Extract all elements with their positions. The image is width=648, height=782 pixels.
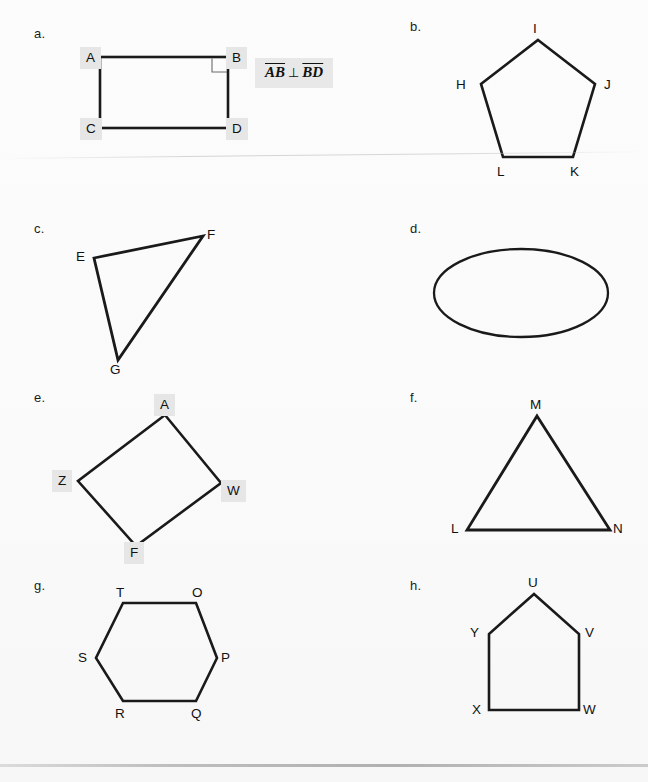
vertex-label-b-J: J bbox=[604, 78, 611, 92]
item-letter-e: e. bbox=[34, 390, 45, 405]
page-bottom-edge bbox=[0, 764, 648, 767]
figure-b-pentagon bbox=[478, 38, 598, 168]
item-letter-f: f. bbox=[410, 390, 418, 405]
vertex-label-g-O: O bbox=[192, 586, 203, 600]
item-letter-a: a. bbox=[34, 26, 45, 41]
vertex-label-a-C: C bbox=[86, 122, 96, 136]
figure-d-ellipse bbox=[432, 246, 612, 340]
vertex-label-c-F: F bbox=[207, 228, 215, 242]
vertex-label-a-A: A bbox=[86, 51, 95, 65]
figure-h-house bbox=[487, 592, 583, 714]
item-letter-h: h. bbox=[410, 578, 421, 593]
vertex-label-b-H: H bbox=[456, 78, 466, 92]
vertex-label-c-E: E bbox=[76, 250, 85, 264]
perpendicular-symbol: ⊥ bbox=[285, 65, 302, 80]
vertex-label-b-L: L bbox=[497, 165, 505, 179]
figure-a-rectangle bbox=[100, 57, 232, 133]
vertex-label-h-X: X bbox=[472, 703, 481, 717]
vertex-label-e-F: F bbox=[130, 546, 138, 560]
figure-f-triangle bbox=[464, 414, 614, 536]
notation-segment-ab: AB bbox=[265, 64, 285, 80]
figure-g-hexagon bbox=[94, 601, 220, 705]
vertex-label-f-L: L bbox=[451, 522, 459, 536]
vertex-label-h-V: V bbox=[585, 626, 594, 640]
notation-segment-bd: BD bbox=[302, 64, 323, 80]
vertex-label-e-Z: Z bbox=[58, 474, 66, 488]
vertex-label-f-M: M bbox=[530, 398, 541, 412]
vertex-label-f-N: N bbox=[613, 522, 623, 536]
figure-e-quadrilateral bbox=[76, 413, 228, 553]
vertex-label-b-K: K bbox=[570, 165, 579, 179]
item-letter-c: c. bbox=[34, 221, 45, 236]
vertex-label-a-B: B bbox=[232, 51, 241, 65]
vertex-label-g-S: S bbox=[78, 651, 87, 665]
figure-c-triangle bbox=[92, 234, 212, 369]
item-letter-g: g. bbox=[34, 578, 45, 593]
vertex-label-g-R: R bbox=[115, 707, 125, 721]
vertex-label-g-Q: Q bbox=[191, 707, 202, 721]
vertex-label-e-W: W bbox=[227, 484, 240, 498]
vertex-label-h-U: U bbox=[528, 576, 538, 590]
vertex-label-g-P: P bbox=[221, 651, 230, 665]
vertex-label-h-Y: Y bbox=[470, 626, 479, 640]
notation-perpendicular: AB⊥BD bbox=[255, 58, 333, 88]
vertex-label-b-I: I bbox=[533, 22, 537, 36]
vertex-label-c-G: G bbox=[110, 363, 121, 377]
vertex-label-g-T: T bbox=[116, 586, 124, 600]
worksheet-page: a. A B C D AB⊥BD b. I H J L K c. E F G bbox=[0, 0, 648, 782]
vertex-label-e-A: A bbox=[160, 398, 169, 412]
item-letter-b: b. bbox=[410, 19, 421, 34]
vertex-label-h-W: W bbox=[583, 703, 596, 717]
item-letter-d: d. bbox=[410, 221, 421, 236]
vertex-label-a-D: D bbox=[232, 122, 242, 136]
